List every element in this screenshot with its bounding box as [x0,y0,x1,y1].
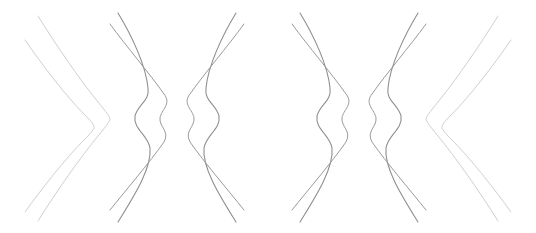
abstract-line-figure: Abstract symmetric line figure Two mirro… [0,0,536,233]
figure-background [0,0,536,233]
figure-canvas: Abstract symmetric line figure Two mirro… [0,0,536,233]
